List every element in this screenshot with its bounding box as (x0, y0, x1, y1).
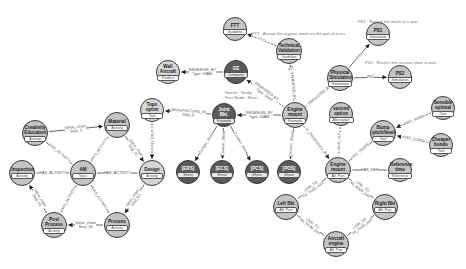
edge-label: Value_chainStep_04 (75, 221, 96, 229)
node-label: Physical Simulation (329, 70, 351, 80)
node-type-badge: Sheet (246, 172, 268, 178)
node-aircraft[interactable]: Aircraft engineAlt. Part (323, 231, 349, 257)
edge-label: HAS_ACTIVITY (39, 171, 66, 175)
node-postprocess[interactable]: Post ProcessActivity (41, 212, 67, 238)
node-type-badge: Activity (106, 225, 128, 231)
knowledge-graph-canvas: Value_ChainStep_0Value_chainStep_02Tool_… (0, 0, 466, 269)
node-type-badge: Guideline (277, 54, 300, 60)
node-type-badge: Alt. Part (325, 247, 347, 253)
node-label: [POS] (283, 166, 296, 171)
edge-label: Contain_Sheet (221, 131, 226, 156)
node-ers[interactable]: [ERS]Sheet (176, 160, 200, 184)
node-type-badge: Activity (11, 173, 33, 179)
annotation-text: PS1 : Restart the mesh at a part (358, 19, 418, 24)
node-label: second option (331, 106, 351, 116)
node-leftbkt[interactable]: Left BktAlt. Part (273, 194, 299, 220)
node-material[interactable]: MaterialActivity (104, 112, 130, 138)
node-pcs[interactable]: [PCS]Sheet (245, 160, 269, 184)
node-label: Left Bkt (277, 201, 294, 206)
node-design[interactable]: DesignActivity (139, 160, 165, 186)
node-topo[interactable]: Topo optimTool (140, 98, 164, 122)
node-second[interactable]: second optionAlternative (329, 102, 353, 126)
node-label: Creativity Education (24, 125, 46, 135)
node-type-badge: Activity (24, 136, 46, 142)
node-jointbkt[interactable]: Joint Bkt.Example (212, 103, 236, 127)
node-inspection[interactable]: InspectionActivity (9, 160, 35, 186)
node-type-badge: Activity (106, 125, 128, 131)
node-type-badge: Example (284, 118, 306, 124)
node-type-badge: Simulation (366, 34, 391, 40)
node-engine[interactable]: Engine mountExample (282, 102, 308, 128)
node-type-badge: Tool (432, 111, 454, 117)
node-label: Topo optim (142, 102, 162, 112)
node-sensible[interactable]: Sensible optimalTool (431, 96, 455, 120)
node-creativity[interactable]: Creativity EducationActivity (22, 120, 48, 146)
node-label: Engine mount (327, 162, 349, 172)
node-label: Reference time (390, 162, 410, 172)
node-ps1[interactable]: PS1Simulation (366, 22, 390, 46)
edge-label: MANUFACTURE_INStep_8 (170, 107, 205, 118)
node-label: [ECS] (216, 166, 229, 171)
node-physical[interactable]: Physical SimulationSimulation (327, 65, 353, 91)
annotation-text: Starter : StudyFirst Node : Main (225, 90, 257, 100)
node-nasa[interactable]: Wall AircraftProduct (156, 60, 180, 84)
node-enginemount2[interactable]: Engine mountAlt. Part (325, 157, 351, 183)
node-type-badge: Tool (372, 136, 394, 142)
annotation-text: FTT : Accept the organic mesh on the par… (252, 31, 345, 36)
node-am[interactable]: AMTopic (70, 160, 96, 186)
node-type-badge: Product (157, 75, 179, 81)
edge-label: Tool_Used (150, 132, 154, 150)
edge-label: REDESIGN_BYType: DfAM (246, 111, 273, 119)
annotation-text: PS2 : Restrict the version close to part (365, 60, 436, 65)
node-type-badge: Sheet (177, 172, 199, 178)
node-type-badge: Company (224, 72, 247, 78)
node-label: [PCS] (251, 166, 264, 171)
node-label: Technical Validation (278, 43, 300, 53)
node-type-badge: Sheet (278, 172, 300, 178)
node-type-badge: Alt. Part (275, 207, 297, 213)
node-type-badge: Guideline (223, 29, 246, 35)
node-type-badge: Topic (72, 173, 94, 179)
node-type-badge: Reference (388, 173, 413, 179)
node-type-badge: Tool (430, 148, 452, 154)
node-label: Inspection (11, 167, 33, 172)
node-reference[interactable]: Reference timeReference (388, 158, 412, 182)
node-tech[interactable]: Technical ValidationGuideline (276, 38, 302, 64)
node-type-badge: Alt. Part (327, 173, 349, 179)
edge-label: PS2 (367, 75, 374, 79)
node-label: Aircraft engine (325, 236, 347, 246)
node-label: Right Bkt (375, 201, 395, 206)
node-label: FTT (231, 23, 239, 28)
node-type-badge: Simulation (388, 77, 413, 83)
node-ps2[interactable]: PS2Simulation (388, 65, 412, 89)
node-label: Bump pitch/level (372, 125, 394, 135)
node-type-badge: Simulation (328, 81, 353, 87)
node-type-badge: Activity (43, 228, 65, 234)
node-label: Wall Aircraft (158, 64, 178, 74)
node-ge[interactable]: GECompany (224, 60, 248, 84)
node-process[interactable]: ProcessActivity (104, 212, 130, 238)
edge-label: HAS_ACTIVITY (104, 171, 131, 175)
node-label: Sensible optimal (433, 100, 453, 110)
node-pos[interactable]: [POS]Sheet (277, 160, 301, 184)
node-cheaper[interactable]: Cheaper bondsTool (429, 133, 453, 157)
edge-label: REDESIGN_BYType: DfAM (189, 68, 216, 76)
node-label: Post Process (43, 217, 65, 227)
node-bump[interactable]: Bump pitch/levelTool (370, 120, 396, 146)
edge-label: HAS_REF (361, 168, 379, 172)
node-type-badge: Example (213, 118, 235, 124)
node-type-badge: Activity (141, 173, 163, 179)
node-label: [ERS] (182, 166, 195, 171)
node-type-badge: Tool (141, 113, 163, 119)
node-label: Engine mount (284, 107, 306, 117)
node-label: Joint Bkt. (214, 107, 234, 117)
node-label: GE (233, 66, 240, 71)
node-ecs[interactable]: [ECS]Sheet (210, 160, 234, 184)
node-label: Material (108, 119, 125, 124)
node-label: PS2 (396, 71, 405, 76)
node-type-badge: Alternative (329, 117, 354, 123)
node-label: Cheaper bonds (431, 137, 451, 147)
node-type-badge: Alt. Part (374, 207, 396, 213)
node-ftt[interactable]: FTTGuideline (223, 17, 247, 41)
node-rightbkt[interactable]: Right BktAlt. Part (372, 194, 398, 220)
